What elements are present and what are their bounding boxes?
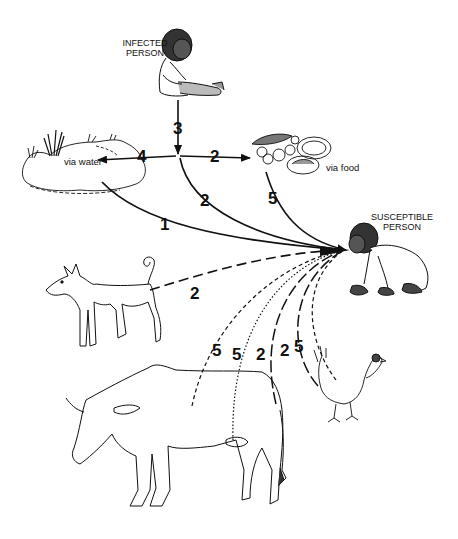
susceptible-person-label-line1: SUSCEPTIBLE	[364, 212, 440, 222]
path-water-to-susceptible	[102, 182, 344, 250]
infected-person-label: INFECTED PERSON	[115, 38, 175, 58]
susceptible-person-figure	[349, 223, 428, 295]
route-number-junction-water: 4	[137, 148, 146, 165]
path-dog-to-susceptible	[150, 250, 344, 290]
infected-person-label-line2: PERSON	[115, 48, 175, 58]
route-number-food-susceptible: 5	[268, 190, 277, 207]
infected-person-label-line1: INFECTED	[115, 38, 175, 48]
route-number-infected-junction: 3	[173, 120, 182, 137]
route-number-cow-dashed: 5	[212, 342, 221, 359]
via-water-label: via water	[64, 156, 102, 167]
route-number-junction-susceptible: 2	[200, 192, 209, 209]
route-number-water-susceptible: 1	[160, 216, 169, 233]
route-number-chicken-longdash: 2	[280, 342, 289, 359]
diagram-drawing	[0, 0, 458, 539]
route-number-chicken-dashed: 5	[294, 338, 303, 355]
chicken-figure	[314, 346, 386, 422]
route-number-cow-longdash: 2	[256, 346, 265, 363]
susceptible-person-label-line2: PERSON	[364, 222, 440, 232]
susceptible-person-label: SUSCEPTIBLE PERSON	[364, 212, 440, 232]
cow-figure	[66, 365, 286, 506]
route-number-cow-dotted: 5	[232, 346, 241, 363]
route-number-junction-food: 2	[210, 148, 219, 165]
transmission-diagram: INFECTED PERSON SUSCEPTIBLE PERSON via w…	[0, 0, 458, 539]
dog-figure	[46, 257, 161, 346]
via-food-label: via food	[326, 162, 359, 173]
path-food-to-susceptible	[266, 172, 346, 250]
route-number-dog-susceptible: 2	[190, 285, 199, 302]
food-figure	[252, 134, 331, 174]
